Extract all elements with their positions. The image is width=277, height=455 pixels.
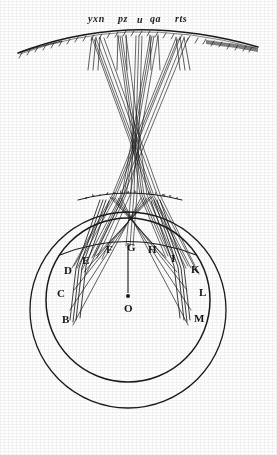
sphere-label-E: E (82, 255, 89, 266)
upper-arc-band (18, 30, 258, 58)
top-label-pz: pz (118, 14, 128, 24)
micro-label-o: o (176, 196, 178, 200)
micro-label-k: k (148, 191, 150, 195)
sphere-label-D: D (64, 265, 72, 276)
sphere-label-L: L (199, 287, 206, 298)
sphere-label-O: O (124, 303, 133, 314)
micro-label-c: c (99, 193, 101, 197)
top-label-u: u (137, 15, 143, 25)
sphere-label-G: G (127, 242, 136, 253)
top-label-yxn: yxn (88, 14, 105, 24)
micro-label-f: f (120, 190, 122, 194)
micro-label-l: l (155, 192, 156, 196)
sphere-label-C: C (57, 288, 65, 299)
micro-label-h: h (134, 190, 137, 194)
micro-label-m: m (162, 193, 166, 197)
micro-label-g: g (127, 190, 129, 194)
micro-label-n: n (169, 194, 172, 198)
micro-label-d: d (106, 192, 108, 196)
micro-label-b: b (92, 194, 94, 198)
figure-root: yxn pz u qa rts a b c d e f g h i k l m … (0, 0, 277, 455)
sphere-label-K: K (191, 264, 200, 275)
micro-label-i: i (141, 190, 142, 194)
sphere-label-M: M (194, 313, 204, 324)
sphere-label-H: H (148, 244, 157, 255)
sphere-label-I: I (171, 253, 175, 264)
micro-label-e: e (113, 191, 115, 195)
optical-ray-diagram (0, 0, 277, 455)
sphere-label-F: F (106, 244, 113, 255)
top-label-qa: qa (150, 14, 161, 24)
top-label-rts: rts (175, 14, 187, 24)
center-point-marker (126, 294, 130, 298)
micro-label-a: a (85, 196, 87, 200)
sphere-label-B: B (62, 314, 69, 325)
